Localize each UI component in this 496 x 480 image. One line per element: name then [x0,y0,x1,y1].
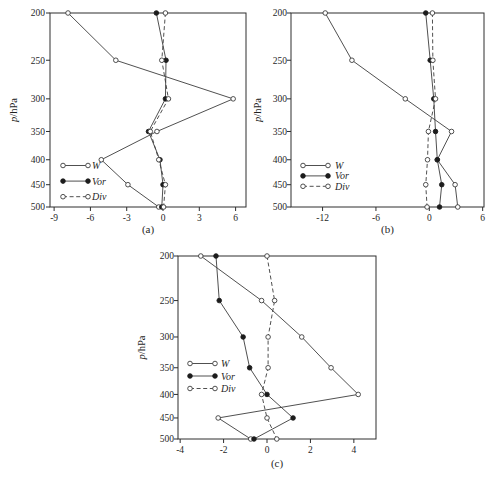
legend-marker-W [61,163,66,168]
marker-Vor [439,182,444,187]
legend-marker-Vor [301,174,306,179]
legend-marker-Div [301,184,306,189]
x-tick-label: -6 [86,213,94,223]
legend-label-Div: Div [334,181,350,192]
marker-Div [259,392,264,397]
chart-svg-c: 200250300350400450500-4-2024p/hPaWVorDiv… [120,240,386,480]
marker-Vor [423,11,428,16]
x-tick-label: 6 [480,213,485,223]
chart-b: 200250300350400450500-12-606p/hPaWVorDiv… [248,0,496,240]
chart-svg-a: 200250300350400450500-9-6-3036p/hPaWVorD… [0,0,248,240]
y-tick-label: 250 [273,56,288,66]
marker-Vor [247,365,252,370]
marker-Div [423,182,428,187]
legend-marker-W [326,163,331,168]
chart-caption-c: (c) [271,457,284,470]
y-tick-label: 450 [31,180,46,190]
legend-label-Vor: Vor [221,371,235,382]
y-tick-label: 200 [273,8,288,18]
legend-label-Div: Div [91,191,107,202]
legend-marker-W [213,361,218,366]
legend-marker-Div [326,184,331,189]
marker-Div [426,129,431,134]
marker-Div [265,254,270,259]
marker-Vor [435,157,440,162]
y-tick-label: 250 [160,296,175,306]
marker-Vor [265,392,270,397]
legend-label-W: W [221,358,231,369]
marker-Div [163,182,168,187]
marker-Div [431,58,436,63]
chart-svg-b: 200250300350400450500-12-606p/hPaWVorDiv… [248,0,496,240]
marker-W [350,58,355,63]
marker-Div [265,416,270,421]
marker-Div [161,205,166,210]
x-tick-label: -6 [372,213,380,223]
x-tick-label: -4 [176,445,184,455]
y-tick-label: 200 [31,8,46,18]
legend-label-W: W [335,160,345,171]
figure-canvas: 200250300350400450500-9-6-3036p/hPaWVorD… [0,0,496,480]
x-tick-label: -9 [50,213,58,223]
x-tick-label: -3 [123,213,131,223]
y-tick-label: 200 [160,251,175,261]
marker-Vor [154,11,159,16]
y-tick-label: 450 [273,180,288,190]
x-tick-label: 4 [351,445,356,455]
y-axis-label: p/hPa [8,98,19,123]
legend-label-Div: Div [220,383,236,394]
y-tick-label: 350 [273,127,288,137]
y-tick-label: 350 [160,363,175,373]
marker-W [114,58,119,63]
x-tick-label: 6 [233,213,238,223]
series-line-Vor [426,13,442,207]
chart-a: 200250300350400450500-9-6-3036p/hPaWVorD… [0,0,248,240]
marker-Vor [252,437,257,442]
marker-Div [148,129,153,134]
y-tick-label: 450 [160,413,175,423]
x-tick-label: 3 [197,213,202,223]
marker-Div [266,365,271,370]
x-tick-label: -2 [220,445,228,455]
y-tick-label: 400 [31,155,46,165]
plot-box [50,13,246,207]
marker-Div [166,97,171,102]
legend-marker-Div [86,194,91,199]
x-tick-label: -12 [316,213,329,223]
x-tick-label: 2 [308,445,313,455]
marker-W [356,392,361,397]
marker-Vor [217,298,222,303]
y-tick-label: 250 [31,56,46,66]
legend-marker-Vor [213,374,218,379]
marker-W [126,182,131,187]
marker-W [323,11,328,16]
legend-marker-Div [61,194,66,199]
marker-W [453,182,458,187]
marker-Div [156,157,161,162]
marker-Vor [437,205,442,210]
x-tick-label: 0 [161,213,166,223]
y-tick-label: 300 [160,332,175,342]
y-axis-label: p/hPa [136,335,147,360]
marker-W [449,129,454,134]
marker-Div [425,157,430,162]
chart-c: 200250300350400450500-4-2024p/hPaWVorDiv… [120,240,386,480]
marker-W [259,298,264,303]
x-tick-label: 0 [427,213,432,223]
legend-marker-Vor [61,179,66,184]
y-tick-label: 500 [273,202,288,212]
series-line-Div [262,256,277,439]
marker-Vor [433,129,438,134]
marker-Vor [291,416,296,421]
marker-Div [159,58,164,63]
legend-marker-W [301,163,306,168]
legend-label-Vor: Vor [92,176,106,187]
plot-box [178,256,376,439]
marker-Div [425,205,430,210]
marker-W [231,97,236,102]
marker-Div [430,11,435,16]
marker-W [155,129,160,134]
y-tick-label: 400 [273,155,288,165]
legend-marker-W [86,163,91,168]
legend-marker-Div [213,386,218,391]
